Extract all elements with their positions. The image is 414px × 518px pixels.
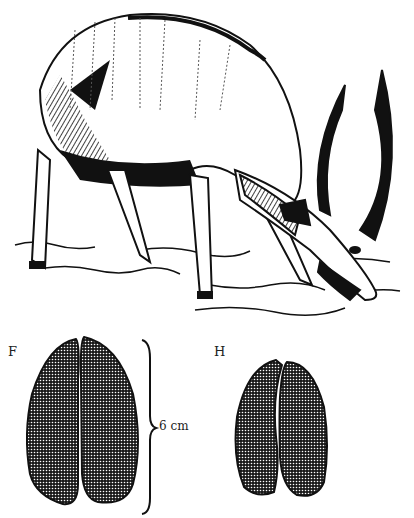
antelope-body — [40, 14, 301, 205]
hind-track-drawing — [232, 357, 332, 502]
front-track-drawing — [18, 334, 148, 514]
scale-brace — [140, 338, 160, 516]
antelope-illustration — [0, 0, 414, 330]
hind-track-label: H — [214, 344, 225, 359]
front-track-label: F — [8, 344, 17, 359]
scale-label: 6 cm — [159, 419, 189, 433]
